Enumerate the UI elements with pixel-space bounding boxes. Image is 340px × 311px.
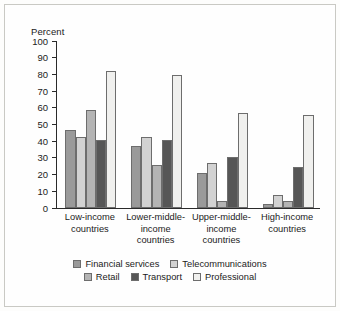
bar [293,167,303,208]
y-tick-label: 70 [37,86,48,97]
y-tick-label: 20 [37,169,48,180]
legend-item[interactable]: Telecommunications [170,259,266,269]
x-axis-category-label: High-incomecountries [250,212,324,235]
legend-row-2: RetailTransportProfessional [0,272,340,282]
y-tick-label: 90 [37,52,48,63]
category-label-line: income [185,224,259,236]
legend-item[interactable]: Professional [193,272,256,282]
bar [76,137,86,208]
bar [162,140,172,208]
legend-label: Transport [143,272,182,282]
bar [65,130,75,208]
chart-figure: Percent 1009080706050403020100 Low-incom… [0,0,340,311]
legend-label: Professional [205,272,256,282]
legend-row-1: Financial servicesTelecommunications [0,259,340,269]
legend-swatch-icon [73,260,81,268]
bar [96,140,106,208]
category-label-line: countries [53,224,127,236]
bar [141,137,151,208]
legend-label: Retail [96,272,120,282]
bar [273,195,283,208]
y-tick-label: 60 [37,102,48,113]
category-label-line: countries [119,235,193,247]
legend-item[interactable]: Transport [131,272,182,282]
plot-area [57,41,320,208]
x-axis-category-label: Upper-middle-incomecountries [185,212,259,247]
bar [131,146,141,208]
legend-swatch-icon [193,273,201,281]
legend-item[interactable]: Retail [84,272,120,282]
category-label-line: Upper-middle- [185,212,259,224]
bar [197,173,207,208]
bar [207,163,217,208]
legend-swatch-icon [84,273,92,281]
y-tick-label: 40 [37,136,48,147]
y-tick-label: 80 [37,69,48,80]
legend-label: Financial services [85,259,159,269]
category-label-line: Low-income [53,212,127,224]
x-axis-category-label: Low-incomecountries [53,212,127,235]
bar [217,201,227,209]
bar [227,157,237,208]
y-tick-label: 50 [37,119,48,130]
bar [86,110,96,208]
category-label-line: Lower-middle- [119,212,193,224]
category-label-line: income [119,224,193,236]
category-label-line: countries [250,224,324,236]
x-axis-category-labels: Low-incomecountriesLower-middle-incomeco… [57,212,320,260]
category-label-line: countries [185,235,259,247]
chart-legend: Financial servicesTelecommunications Ret… [0,259,340,285]
y-tick-label: 10 [37,186,48,197]
bar [238,113,248,208]
y-tick-label: 30 [37,152,48,163]
bar [263,204,273,208]
x-axis-category-label: Lower-middle-incomecountries [119,212,193,247]
bar-groups [57,41,320,208]
legend-item[interactable]: Financial services [73,259,159,269]
bar [152,165,162,208]
y-tick-label: 0 [43,203,48,214]
legend-label: Telecommunications [182,259,266,269]
legend-swatch-icon [131,273,139,281]
bar [283,201,293,209]
bar [303,115,313,208]
legend-swatch-icon [170,260,178,268]
x-axis-line [56,208,320,209]
bar [172,75,182,208]
y-tick-label: 100 [32,36,48,47]
bar [106,71,116,208]
category-label-line: High-income [250,212,324,224]
